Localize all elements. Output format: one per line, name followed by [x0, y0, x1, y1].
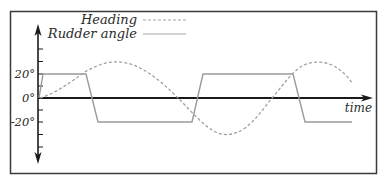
legend-label-heading: Heading: [80, 12, 137, 27]
chart: Heading Rudder angle 20° 0° -20° time: [0, 0, 384, 178]
legend-label-rudder-angle: Rudder angle: [47, 26, 137, 41]
y-tick-label-neg20: -20°: [11, 115, 35, 129]
y-tick-label-0: 0°: [22, 91, 35, 105]
x-axis-label-time: time: [345, 101, 372, 115]
y-tick-label-20: 20°: [14, 67, 35, 81]
